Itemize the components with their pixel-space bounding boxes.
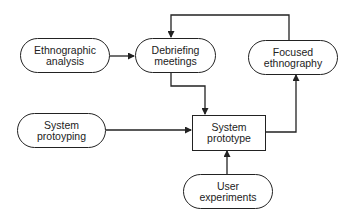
node-label-line1: Focused bbox=[273, 47, 313, 58]
node-label-line1: Ethnographic bbox=[34, 45, 96, 56]
node-system-prototype: System prototype bbox=[192, 115, 266, 151]
node-label-line2: ethnography bbox=[264, 58, 322, 69]
node-label-line2: protoyping bbox=[37, 131, 86, 142]
edge-focused-to-debriefing bbox=[171, 15, 289, 40]
node-label-line2: meetings bbox=[154, 56, 197, 67]
node-label-line1: User bbox=[217, 181, 239, 192]
edge-prototype-to-focused bbox=[266, 75, 296, 132]
node-debriefing-meetings: Debriefing meetings bbox=[135, 38, 216, 73]
edge-debriefing-to-prototype bbox=[171, 72, 205, 114]
node-label-line2: prototype bbox=[207, 133, 251, 144]
node-label-line1: System bbox=[44, 120, 79, 131]
node-system-protoyping: System protoyping bbox=[17, 113, 106, 148]
node-label-line2: experiments bbox=[199, 192, 256, 203]
node-user-experiments: User experiments bbox=[183, 174, 273, 209]
connector-lines bbox=[0, 0, 356, 218]
node-ethnographic-analysis: Ethnographic analysis bbox=[20, 38, 110, 73]
node-label-line1: Debriefing bbox=[152, 45, 200, 56]
node-label-line2: analysis bbox=[46, 56, 84, 67]
node-focused-ethnography: Focused ethnography bbox=[248, 40, 338, 75]
